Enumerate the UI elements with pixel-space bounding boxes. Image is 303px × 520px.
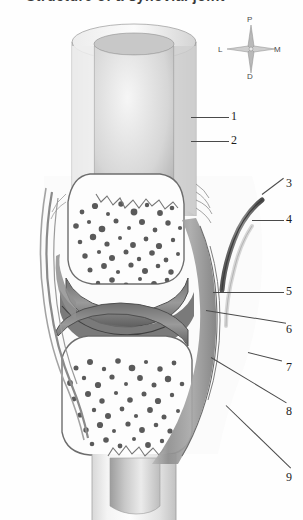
callout-number: 3 (286, 177, 292, 189)
compass-label-east: M (274, 46, 281, 54)
callout-number: 1 (231, 110, 237, 122)
compass-star-icon (227, 25, 275, 73)
callout-leader-line (191, 141, 229, 142)
callout-number: 6 (286, 323, 292, 335)
compass-label-south: D (247, 73, 253, 81)
anatomical-orientation-rose: P L M D (218, 16, 284, 82)
callout-number: 2 (231, 134, 237, 146)
illustration-page: Structure of a synovial joint (0, 0, 303, 520)
callout-number: 4 (286, 213, 292, 225)
joint-illustration (0, 6, 303, 520)
callout-number: 8 (286, 405, 292, 417)
callout-leader-line (252, 220, 284, 221)
callout-leader-line (213, 292, 284, 293)
callout-number: 7 (286, 361, 292, 373)
compass-label-north: P (247, 16, 252, 24)
callout-number: 5 (286, 285, 292, 297)
compass-label-west: L (218, 46, 222, 54)
callout-number: 9 (286, 471, 292, 483)
callout-leader-line (191, 117, 229, 118)
page-title-text: Structure of a synovial joint (26, 0, 225, 4)
